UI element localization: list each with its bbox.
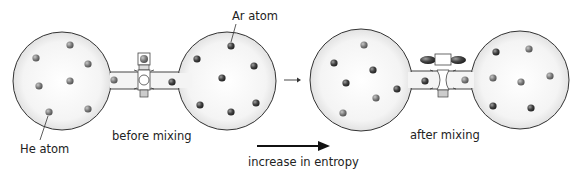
after-mixing-label: after mixing xyxy=(410,128,480,142)
transition-arrow xyxy=(284,78,301,83)
he-atom-label: He atom xyxy=(20,142,69,156)
ar-atom-label: Ar atom xyxy=(232,9,278,23)
he-flask xyxy=(13,32,111,130)
before-mixing-apparatus: Ar atom He atom before mixing xyxy=(13,9,278,156)
gas-mixing-diagram: Ar atom He atom before mixing xyxy=(0,0,581,176)
before-mixing-label: before mixing xyxy=(112,129,192,143)
entropy-label: increase in entropy xyxy=(248,155,359,169)
ar-flask xyxy=(178,32,276,130)
after-mixing-apparatus: after mixing xyxy=(310,29,569,142)
entropy-arrow xyxy=(257,141,330,151)
